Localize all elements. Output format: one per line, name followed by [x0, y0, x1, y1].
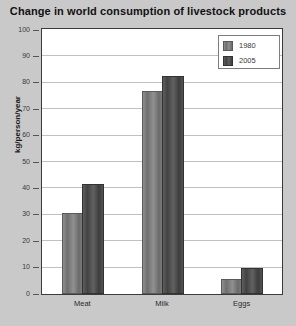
- x-tick-label-milk: Milk: [132, 299, 192, 308]
- y-tick-label: 90: [2, 52, 30, 59]
- x-tick-label-meat: Meat: [52, 299, 112, 308]
- chart-legend: 19802005: [218, 35, 280, 69]
- y-tick-label: 30: [2, 210, 30, 217]
- y-tick-label: 40: [2, 184, 30, 191]
- y-tick-mark: [33, 56, 39, 57]
- y-tick-label: 100: [2, 26, 30, 33]
- y-tick-mark: [33, 267, 39, 268]
- y-tick-mark: [33, 214, 39, 215]
- chart-title: Change in world consumption of livestock…: [0, 5, 296, 17]
- y-tick-mark: [33, 294, 39, 295]
- legend-item-2005[interactable]: 2005: [223, 54, 279, 67]
- bar-eggs-2005: [241, 268, 263, 294]
- legend-item-1980[interactable]: 1980: [223, 39, 279, 52]
- y-tick-mark: [33, 109, 39, 110]
- y-tick-mark: [33, 188, 39, 189]
- y-tick-mark: [33, 82, 39, 83]
- y-tick-mark: [33, 162, 39, 163]
- y-tick-label: 0: [2, 290, 30, 297]
- y-tick-label: 60: [2, 131, 30, 138]
- y-tick-mark: [33, 30, 39, 31]
- y-tick-mark: [33, 135, 39, 136]
- legend-label: 1980: [239, 41, 256, 50]
- y-tick-label: 20: [2, 237, 30, 244]
- y-tick-mark: [33, 241, 39, 242]
- bar-milk-2005: [162, 76, 184, 294]
- legend-swatch-icon: [223, 56, 233, 66]
- y-tick-label: 50: [2, 158, 30, 165]
- x-tick-label-eggs: Eggs: [212, 299, 272, 308]
- chart-figure: Change in world consumption of livestock…: [0, 0, 296, 326]
- legend-swatch-icon: [223, 41, 233, 51]
- bar-meat-1980: [62, 213, 84, 294]
- y-tick-label: 10: [2, 263, 30, 270]
- y-tick-label: 70: [2, 105, 30, 112]
- bar-eggs-1980: [221, 279, 243, 294]
- bar-meat-2005: [82, 184, 104, 294]
- y-tick-label: 80: [2, 78, 30, 85]
- bar-milk-1980: [142, 91, 164, 294]
- legend-label: 2005: [239, 56, 256, 65]
